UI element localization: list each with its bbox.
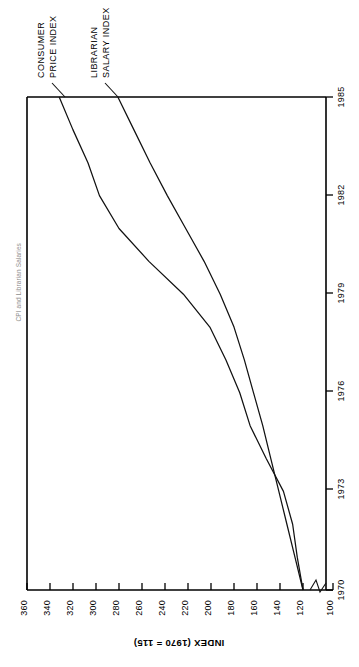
value-tick-label: 160 bbox=[249, 600, 259, 616]
legend-item-librarian-salary-index-line1: LIBRARIAN bbox=[89, 26, 99, 78]
chart-canvas: 360 340 320 300 280 260 240 220 200 180 … bbox=[0, 0, 359, 667]
value-tick-label: 240 bbox=[157, 600, 167, 616]
value-axis-ticks bbox=[27, 583, 333, 590]
time-axis-ticks bbox=[326, 97, 333, 590]
time-tick-label: 1970 bbox=[336, 580, 346, 601]
legend-item-librarian-salary-index-line2: SALARY INDEX bbox=[101, 7, 111, 78]
legend: CONSUMER PRICE INDEX LIBRARIAN SALARY IN… bbox=[36, 7, 111, 78]
value-tick-label: 360 bbox=[19, 600, 29, 616]
series-line-consumer-price-index bbox=[59, 97, 303, 590]
time-tick-label: 1982 bbox=[336, 185, 346, 206]
series-group bbox=[59, 97, 303, 590]
time-tick-label: 1979 bbox=[336, 283, 346, 304]
legend-leader-consumer bbox=[52, 83, 65, 97]
legend-leaders bbox=[52, 83, 118, 97]
chart-figure: CPI and Librarian Salaries bbox=[0, 0, 359, 667]
time-tick-label: 1973 bbox=[336, 479, 346, 500]
value-tick-label: 220 bbox=[180, 600, 190, 616]
value-tick-label: 340 bbox=[42, 600, 52, 616]
value-tick-label: 180 bbox=[226, 600, 236, 616]
value-tick-labels: 360 340 320 300 280 260 240 220 200 180 … bbox=[19, 600, 335, 616]
axes-frame bbox=[27, 97, 333, 590]
legend-item-consumer-price-index-line1: CONSUMER bbox=[36, 22, 46, 78]
time-tick-label: 1985 bbox=[336, 87, 346, 108]
value-tick-label: 260 bbox=[134, 600, 144, 616]
value-tick-label: 140 bbox=[272, 600, 282, 616]
time-tick-label: 1976 bbox=[336, 381, 346, 402]
value-tick-label: 300 bbox=[88, 600, 98, 616]
value-tick-label: 280 bbox=[111, 600, 121, 616]
legend-item-consumer-price-index-line2: PRICE INDEX bbox=[48, 16, 58, 78]
legend-leader-librarian bbox=[105, 83, 118, 97]
value-tick-label: 120 bbox=[295, 600, 305, 616]
value-tick-label: 100 bbox=[325, 600, 335, 616]
value-tick-label: 320 bbox=[65, 600, 75, 616]
value-axis-title: INDEX (1970 = 115) bbox=[134, 638, 225, 649]
series-line-librarian-salary-index bbox=[118, 97, 303, 590]
value-tick-label: 200 bbox=[203, 600, 213, 616]
time-tick-labels: 1985 1982 1979 1976 1973 1970 bbox=[336, 87, 346, 601]
